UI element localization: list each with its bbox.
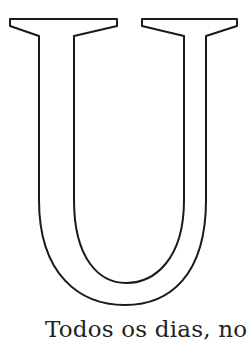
letter-u-shape — [10, 19, 237, 305]
caption-text: Todos os dias, no — [45, 316, 247, 342]
